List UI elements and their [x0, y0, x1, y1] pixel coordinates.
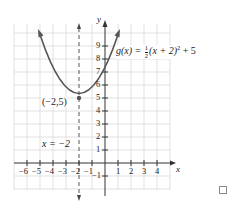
y-tick-label: 9: [96, 41, 100, 50]
x-tick-label: −6: [19, 167, 28, 176]
function-body: (x + 2): [149, 45, 177, 56]
y-tick-label: 1: [96, 145, 100, 154]
y-tick-label: 8: [96, 54, 100, 63]
x-axis-label: x: [176, 165, 180, 174]
y-tick-label: 2: [96, 132, 100, 141]
x-tick-label: −1: [84, 167, 93, 176]
function-prefix: g(x) =: [116, 45, 144, 56]
x-tick-label: −2: [71, 167, 80, 176]
x-tick-label: −5: [32, 167, 41, 176]
vertex-point: [77, 96, 81, 100]
y-tick-label: 3: [96, 119, 100, 128]
function-label: g(x) = 12(x + 2)2 + 5: [116, 45, 197, 59]
x-tick-label: 1: [116, 167, 120, 176]
x-tick-label: −4: [45, 167, 54, 176]
function-suffix: + 5: [180, 45, 196, 56]
x-tick-label: 3: [142, 167, 146, 176]
y-tick-label: 5: [96, 93, 100, 102]
y-tick-label: 6: [96, 80, 100, 89]
x-tick-label: 2: [129, 167, 133, 176]
parabola-chart: [0, 0, 233, 211]
x-tick-label: 4: [155, 167, 159, 176]
y-axis-label: y: [97, 15, 101, 24]
y-tick-label: −1: [92, 171, 101, 180]
fraction-denominator: 2: [145, 53, 148, 60]
vertex-label: (−2,5): [42, 97, 67, 107]
y-tick-label: 4: [96, 106, 100, 115]
symmetry-label: x = −2: [42, 139, 70, 149]
symmetry-label-text: x = −2: [42, 138, 70, 149]
y-tick-label: 7: [96, 67, 100, 76]
function-fraction: 12: [145, 45, 148, 59]
y-axis: [102, 20, 108, 196]
answer-checkbox[interactable]: [219, 186, 227, 194]
x-tick-label: −3: [58, 167, 67, 176]
